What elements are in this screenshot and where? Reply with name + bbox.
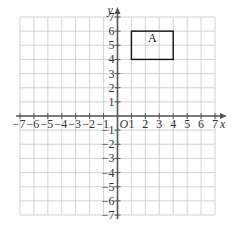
x-tick-label: 7 xyxy=(212,117,218,131)
x-tick-label: 4 xyxy=(170,117,176,131)
shape-label: A xyxy=(148,31,157,45)
tick-labels: −7−6−5−4−3−2−112345677654321−1−2−3−4−5−6… xyxy=(13,3,226,222)
x-tick-label: 3 xyxy=(156,117,162,131)
x-tick-label: −4 xyxy=(54,117,67,131)
x-tick-label: −5 xyxy=(40,117,53,131)
y-tick-label: −1 xyxy=(102,123,115,137)
x-axis-label: x xyxy=(219,117,226,131)
y-tick-label: −4 xyxy=(102,166,115,180)
x-tick-label: 1 xyxy=(128,117,134,131)
y-tick-label: −5 xyxy=(102,180,115,194)
y-tick-label: 1 xyxy=(109,95,115,109)
y-axis-label: y xyxy=(107,3,114,17)
y-tick-label: −6 xyxy=(102,194,115,208)
y-tick-label: −3 xyxy=(102,151,115,165)
x-tick-label: −3 xyxy=(68,117,81,131)
x-tick-label: −6 xyxy=(27,117,40,131)
y-tick-label: 5 xyxy=(109,38,115,52)
y-tick-label: −7 xyxy=(102,208,115,222)
x-tick-label: 6 xyxy=(198,117,204,131)
y-tick-label: −2 xyxy=(102,137,115,151)
x-tick-label: −2 xyxy=(82,117,95,131)
y-tick-label: 6 xyxy=(109,24,115,38)
y-tick-label: 3 xyxy=(109,67,115,81)
y-axis-arrow-icon xyxy=(115,7,121,14)
y-tick-label: 4 xyxy=(109,52,115,66)
coordinate-plane: −7−6−5−4−3−2−112345677654321−1−2−3−4−5−6… xyxy=(0,0,239,229)
origin-label: O xyxy=(120,117,129,131)
y-tick-label: 2 xyxy=(109,81,115,95)
x-tick-label: −7 xyxy=(13,117,26,131)
x-tick-label: 5 xyxy=(184,117,190,131)
x-tick-label: 2 xyxy=(142,117,148,131)
